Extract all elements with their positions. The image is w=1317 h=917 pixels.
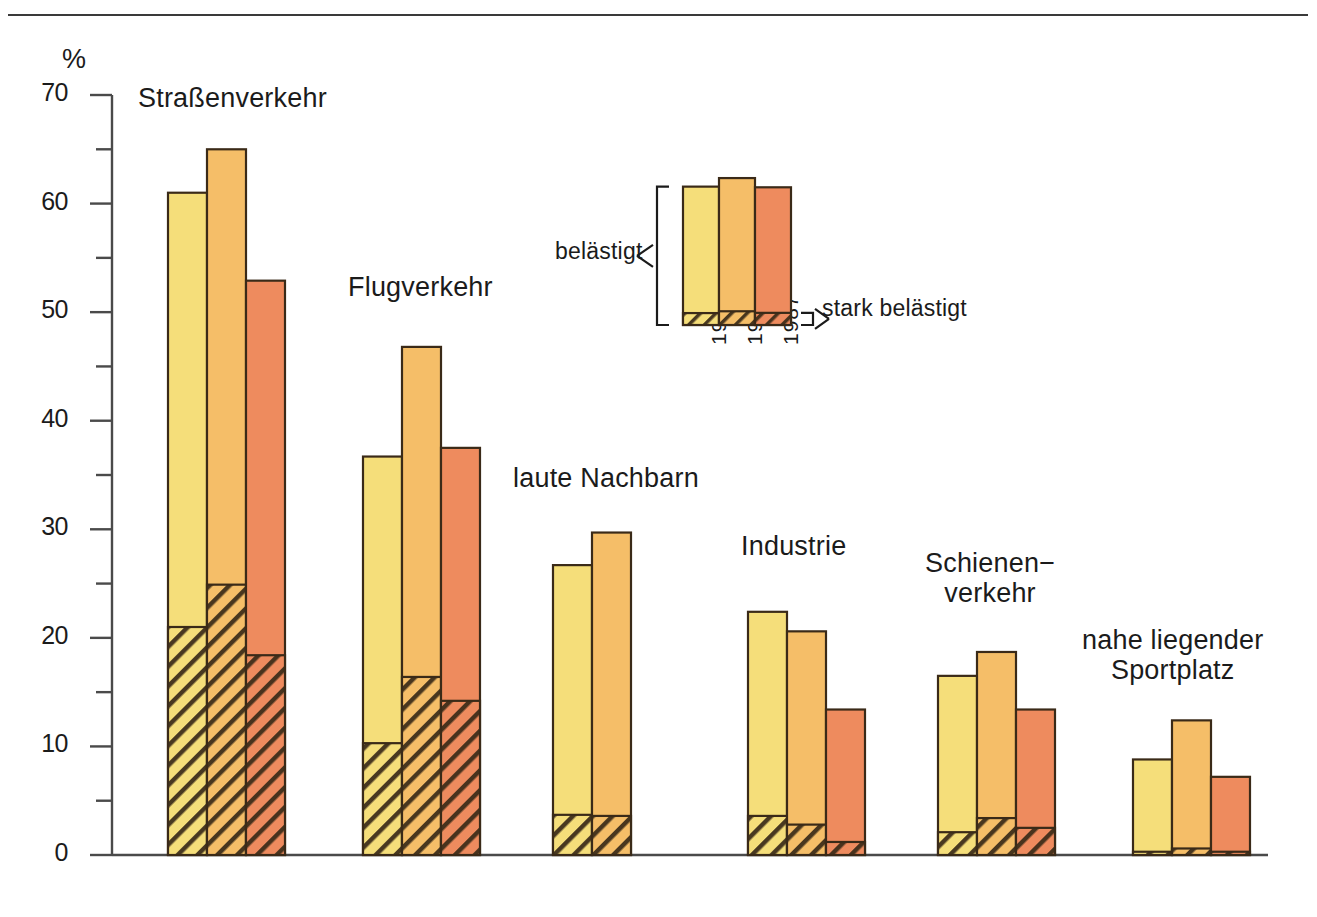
bar-industrie-1987-stark-belaestigt — [826, 842, 865, 855]
legend-pointer-belaestigt — [637, 245, 653, 267]
legend-bar-1986-stark-belaestigt — [719, 311, 755, 325]
legend-bracket-belaestigt — [657, 187, 669, 325]
bar-straßenverkehr-1986-stark-belaestigt — [207, 585, 246, 855]
bar-nahe-liegender-sportplatz-1987-stark-belaestigt — [1211, 852, 1250, 855]
bar-flugverkehr-1984-stark-belaestigt — [363, 743, 402, 855]
bar-straßenverkehr-1987-stark-belaestigt — [246, 655, 285, 855]
bar-nahe-liegender-sportplatz-1987-belaestigt — [1211, 777, 1250, 855]
chart-figure: % 010203040506070 StraßenverkehrFlugverk… — [0, 0, 1317, 917]
bar-laute-nachbarn-1986-belaestigt — [592, 533, 631, 855]
bar-flugverkehr-1987-stark-belaestigt — [441, 701, 480, 855]
bar-schienenverkehr-1984-stark-belaestigt — [938, 832, 977, 855]
legend-bar-1984-belaestigt — [683, 187, 719, 325]
bar-schienenverkehr-1984-belaestigt — [938, 676, 977, 855]
chart-canvas — [0, 0, 1317, 917]
bar-industrie-1987-belaestigt — [826, 710, 865, 855]
legend-bar-1987-stark-belaestigt — [755, 313, 791, 325]
bar-industrie-1986-stark-belaestigt — [787, 825, 826, 855]
bar-laute-nachbarn-1984-belaestigt — [553, 565, 592, 855]
bar-nahe-liegender-sportplatz-1986-stark-belaestigt — [1172, 848, 1211, 855]
legend-sample-bars — [637, 178, 829, 329]
bar-schienenverkehr-1986-stark-belaestigt — [977, 818, 1016, 855]
bar-straßenverkehr-1984-stark-belaestigt — [168, 627, 207, 855]
bar-nahe-liegender-sportplatz-1984-stark-belaestigt — [1133, 852, 1172, 855]
legend-pointer-stark-belaestigt — [815, 309, 829, 329]
bar-schienenverkehr-1987-stark-belaestigt — [1016, 828, 1055, 855]
legend-bar-1986-belaestigt — [719, 178, 755, 325]
legend-bar-1987-belaestigt — [755, 187, 791, 325]
bar-laute-nachbarn-1986-stark-belaestigt — [592, 816, 631, 855]
bar-nahe-liegender-sportplatz-1984-belaestigt — [1133, 759, 1172, 855]
bar-flugverkehr-1986-stark-belaestigt — [402, 677, 441, 855]
legend-bar-1984-stark-belaestigt — [683, 313, 719, 325]
bar-industrie-1986-belaestigt — [787, 631, 826, 855]
bar-industrie-1984-stark-belaestigt — [748, 816, 787, 855]
legend-bracket-stark-belaestigt — [801, 313, 813, 325]
bar-nahe-liegender-sportplatz-1986-belaestigt — [1172, 720, 1211, 855]
bar-laute-nachbarn-1984-stark-belaestigt — [553, 815, 592, 855]
